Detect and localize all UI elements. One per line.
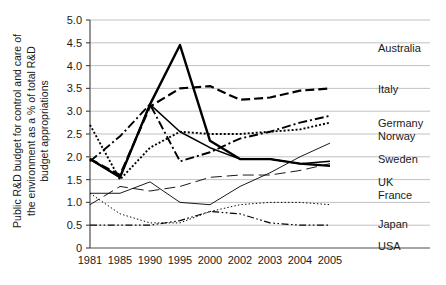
- x-tick-label: 2002: [228, 254, 252, 266]
- y-axis-label-line-2: the environment as a % of total R&D: [24, 46, 36, 216]
- legend-label-australia: Australia: [378, 42, 422, 54]
- y-axis-label-container: Public R&D budget for control and care o…: [0, 0, 62, 262]
- y-axis-label: Public R&D budget for control and care o…: [11, 7, 52, 255]
- legend-label-france: France: [378, 189, 412, 201]
- x-tick-label: 1995: [168, 254, 192, 266]
- y-axis-label-line-3: budget appropriations: [38, 80, 50, 182]
- x-tick-label: 2003: [258, 254, 282, 266]
- y-tick-label: 1.5: [67, 174, 82, 186]
- x-tick-label: 2000: [198, 254, 222, 266]
- legend: AustraliaItalyGermanyNorwaySwedenUKFranc…: [378, 42, 424, 252]
- y-axis-label-line-1: Public R&D budget for control and care o…: [11, 34, 23, 228]
- series-line-japan: [90, 193, 330, 223]
- line-chart-plot: 5.04.54.03.53.02.52.01.51.00.50 19811985…: [0, 0, 446, 285]
- y-tick-label: 4.0: [67, 60, 82, 72]
- series-line-usa: [90, 212, 330, 226]
- x-axis-ticks: 198119851990199520002002200320042005: [78, 254, 342, 266]
- legend-label-uk: UK: [378, 176, 394, 188]
- legend-label-norway: Norway: [378, 130, 416, 142]
- x-tick-label: 2005: [318, 254, 342, 266]
- series-line-germany: [90, 104, 330, 161]
- legend-label-italy: Italy: [378, 83, 399, 95]
- y-tick-label: 1.0: [67, 196, 82, 208]
- y-tick-label: 2.5: [67, 128, 82, 140]
- x-tick-label: 1981: [78, 254, 102, 266]
- legend-label-sweden: Sweden: [378, 153, 418, 165]
- y-axis-ticks: 5.04.54.03.53.02.52.01.51.00.50: [67, 14, 90, 254]
- legend-label-germany: Germany: [378, 117, 424, 129]
- series-line-france: [90, 164, 330, 205]
- data-series-group: [90, 45, 330, 225]
- y-tick-label: 3.0: [67, 105, 82, 117]
- y-tick-label: 2.0: [67, 151, 82, 163]
- x-tick-label: 2004: [288, 254, 312, 266]
- y-tick-label: 0.5: [67, 219, 82, 231]
- y-tick-label: 5.0: [67, 14, 82, 26]
- x-tick-label: 1985: [108, 254, 132, 266]
- legend-label-japan: Japan: [378, 218, 408, 230]
- chart-figure: Public R&D budget for control and care o…: [0, 0, 446, 285]
- y-tick-label: 4.5: [67, 37, 82, 49]
- y-tick-label: 0: [76, 242, 82, 254]
- legend-label-usa: USA: [378, 240, 401, 252]
- x-tick-label: 1990: [138, 254, 162, 266]
- y-tick-label: 3.5: [67, 82, 82, 94]
